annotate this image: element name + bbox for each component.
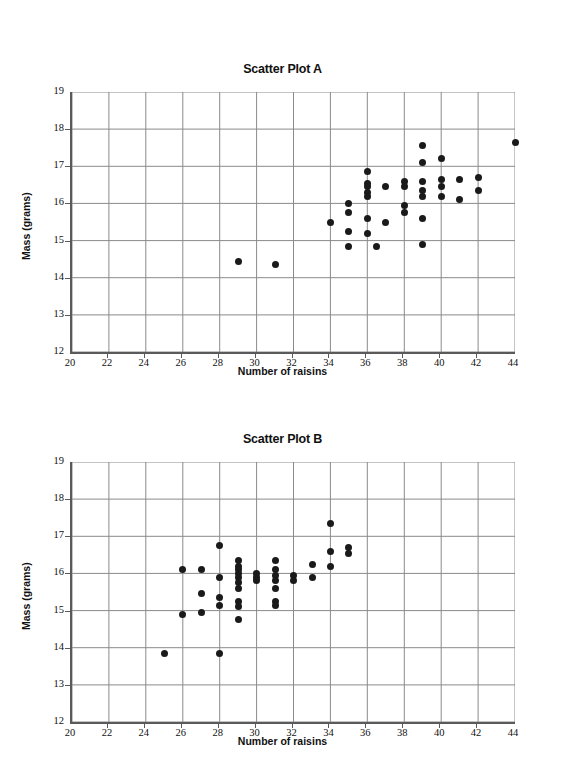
data-point bbox=[401, 183, 408, 190]
data-point bbox=[419, 159, 426, 166]
data-point bbox=[216, 650, 223, 657]
x-tick-mark bbox=[439, 723, 440, 728]
y-tick-mark bbox=[65, 278, 70, 279]
data-point bbox=[456, 176, 463, 183]
plot-b-data-points bbox=[72, 462, 515, 722]
x-tick-mark bbox=[439, 353, 440, 358]
data-point bbox=[272, 557, 279, 564]
y-tick-mark bbox=[65, 241, 70, 242]
data-point bbox=[216, 574, 223, 581]
x-tick-mark bbox=[181, 353, 182, 358]
x-tick-mark bbox=[144, 353, 145, 358]
y-tick-label: 19 bbox=[38, 455, 64, 466]
data-point bbox=[345, 200, 352, 207]
y-tick-mark bbox=[65, 611, 70, 612]
data-point bbox=[345, 243, 352, 250]
y-tick-mark bbox=[65, 315, 70, 316]
x-tick-mark bbox=[181, 723, 182, 728]
x-tick-mark bbox=[218, 353, 219, 358]
data-point bbox=[235, 616, 242, 623]
data-point bbox=[161, 650, 168, 657]
y-tick-label: 16 bbox=[38, 566, 64, 577]
x-tick-mark bbox=[402, 353, 403, 358]
y-tick-mark bbox=[65, 685, 70, 686]
y-tick-label: 14 bbox=[38, 641, 64, 652]
data-point bbox=[272, 577, 279, 584]
data-point bbox=[216, 542, 223, 549]
data-point bbox=[401, 202, 408, 209]
data-point bbox=[179, 611, 186, 618]
data-point bbox=[438, 155, 445, 162]
y-tick-label: 12 bbox=[38, 715, 64, 726]
y-tick-label: 17 bbox=[38, 529, 64, 540]
data-point bbox=[401, 209, 408, 216]
data-point bbox=[512, 139, 519, 146]
data-point bbox=[475, 187, 482, 194]
data-point bbox=[364, 168, 371, 175]
x-tick-mark bbox=[218, 723, 219, 728]
data-point bbox=[290, 577, 297, 584]
data-point bbox=[327, 520, 334, 527]
y-tick-label: 18 bbox=[38, 492, 64, 503]
data-point bbox=[364, 193, 371, 200]
data-point bbox=[327, 219, 334, 226]
data-point bbox=[438, 176, 445, 183]
x-tick-mark bbox=[292, 723, 293, 728]
y-tick-label: 16 bbox=[38, 196, 64, 207]
y-tick-label: 19 bbox=[38, 85, 64, 96]
data-point bbox=[198, 590, 205, 597]
data-point bbox=[309, 574, 316, 581]
plot-b-title: Scatter Plot B bbox=[0, 432, 565, 446]
x-tick-mark bbox=[328, 723, 329, 728]
y-tick-label: 17 bbox=[38, 159, 64, 170]
data-point bbox=[475, 174, 482, 181]
y-tick-label: 12 bbox=[38, 345, 64, 356]
x-tick-mark bbox=[107, 723, 108, 728]
plot-b-x-axis-title: Number of raisins bbox=[0, 735, 565, 747]
data-point bbox=[419, 241, 426, 248]
data-point bbox=[272, 602, 279, 609]
x-tick-mark bbox=[365, 353, 366, 358]
x-tick-mark bbox=[255, 353, 256, 358]
y-tick-mark bbox=[65, 499, 70, 500]
plot-a-y-axis-title: Mass (grams) bbox=[20, 192, 32, 260]
data-point bbox=[382, 183, 389, 190]
data-point bbox=[216, 602, 223, 609]
scatter-plot-b-figure: Scatter Plot B 1213141516171819 20222426… bbox=[0, 390, 565, 782]
plot-a-plot-area bbox=[70, 92, 515, 354]
data-point bbox=[235, 603, 242, 610]
plot-a-x-axis-title: Number of raisins bbox=[0, 365, 565, 377]
y-tick-mark bbox=[65, 573, 70, 574]
data-point bbox=[198, 609, 205, 616]
y-tick-mark bbox=[65, 166, 70, 167]
data-point bbox=[198, 566, 205, 573]
data-point bbox=[364, 230, 371, 237]
x-tick-mark bbox=[328, 353, 329, 358]
y-tick-label: 15 bbox=[38, 234, 64, 245]
y-tick-label: 13 bbox=[38, 308, 64, 319]
data-point bbox=[309, 561, 316, 568]
x-tick-mark bbox=[476, 353, 477, 358]
data-point bbox=[272, 261, 279, 268]
data-point bbox=[373, 243, 380, 250]
data-point bbox=[179, 566, 186, 573]
y-tick-mark bbox=[65, 203, 70, 204]
x-tick-mark bbox=[476, 723, 477, 728]
data-point bbox=[364, 215, 371, 222]
plot-a-title: Scatter Plot A bbox=[0, 62, 565, 76]
y-tick-mark bbox=[65, 536, 70, 537]
plot-b-plot-area bbox=[70, 462, 515, 724]
data-point bbox=[382, 219, 389, 226]
x-tick-mark bbox=[255, 723, 256, 728]
data-point bbox=[253, 577, 260, 584]
y-tick-mark bbox=[65, 648, 70, 649]
plot-a-data-points bbox=[72, 92, 515, 352]
data-point bbox=[235, 585, 242, 592]
data-point bbox=[438, 193, 445, 200]
x-tick-mark bbox=[144, 723, 145, 728]
y-tick-mark bbox=[65, 129, 70, 130]
data-point bbox=[456, 196, 463, 203]
data-point bbox=[235, 258, 242, 265]
scatter-plot-a-figure: Scatter Plot A 1213141516171819 20222426… bbox=[0, 0, 565, 390]
data-point bbox=[438, 183, 445, 190]
